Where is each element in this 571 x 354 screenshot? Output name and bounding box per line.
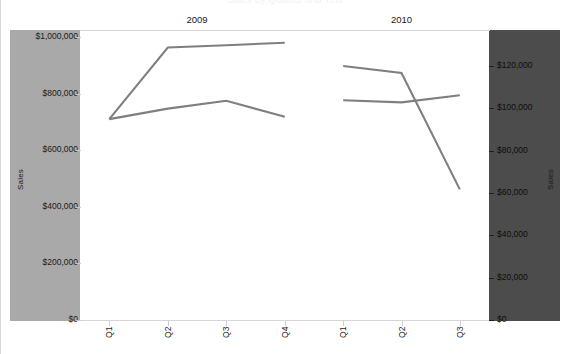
series-lines [0,0,571,354]
chart-root: Sales by Quarter and Year 2009 2010 Sale… [0,0,571,354]
series-line [343,66,460,189]
series-line [343,95,460,102]
series-line [109,101,284,119]
series-line [109,43,284,119]
